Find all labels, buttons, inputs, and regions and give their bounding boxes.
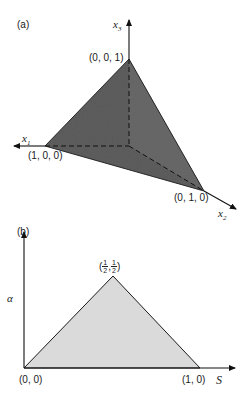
vertex-label-010: (0, 1, 0): [174, 193, 208, 203]
triangle-2d: [24, 232, 235, 368]
diagram-canvas: [0, 0, 251, 403]
s-axis-label: S: [216, 374, 222, 386]
panel-a-label: (a): [17, 20, 29, 30]
alpha-axis-label: α: [7, 293, 13, 304]
vertex-label-origin: (0, 0): [19, 375, 42, 385]
vertex-label-001: (0, 0, 1): [89, 53, 123, 63]
vertex-label-apex: ( 12 , 12 ): [99, 259, 120, 274]
x3-axis-label: x3: [113, 19, 121, 33]
vertex-label-10: (1, 0): [182, 375, 205, 385]
triangle-region: [24, 276, 200, 368]
simplex-3d: [14, 20, 236, 209]
vertex-label-100: (1, 0, 0): [28, 151, 62, 161]
x1-axis-label: x1: [22, 133, 30, 147]
panel-b-label: (b): [17, 227, 29, 237]
x2-axis-label: x2: [218, 208, 226, 222]
